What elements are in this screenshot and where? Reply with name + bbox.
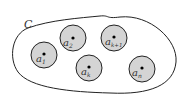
disk-ak: ak	[76, 55, 102, 81]
disk-a2: a2	[60, 25, 86, 51]
diagram: C a1 a2 ak ak+1 an	[0, 0, 190, 105]
disk-a1: a1	[31, 42, 57, 68]
region-label: C	[24, 18, 33, 31]
disk-an: an	[129, 56, 155, 82]
disk-ak1: ak+1	[101, 25, 127, 51]
